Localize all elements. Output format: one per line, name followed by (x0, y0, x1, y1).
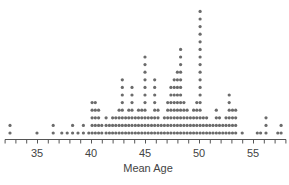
data-point (140, 124, 143, 127)
data-point (118, 124, 121, 127)
data-point (192, 109, 195, 112)
data-point (143, 109, 146, 112)
data-point (140, 109, 143, 112)
data-points (8, 10, 282, 135)
data-point (163, 116, 166, 119)
data-point (179, 55, 182, 58)
data-point (192, 124, 195, 127)
data-point (105, 124, 108, 127)
data-point (143, 101, 146, 104)
data-point (121, 101, 124, 104)
data-point (105, 131, 108, 134)
data-point (150, 124, 153, 127)
data-point (179, 78, 182, 81)
data-point (140, 116, 143, 119)
data-point (163, 131, 166, 134)
data-point (280, 131, 283, 134)
data-point (186, 109, 189, 112)
data-point (153, 124, 156, 127)
data-point (118, 131, 121, 134)
data-point (179, 86, 182, 89)
data-point (166, 131, 169, 134)
data-point (111, 116, 114, 119)
data-point (211, 124, 214, 127)
data-point (153, 109, 156, 112)
data-point (127, 131, 130, 134)
data-point (205, 116, 208, 119)
data-point (111, 124, 114, 127)
data-point (114, 124, 117, 127)
data-point (143, 116, 146, 119)
data-point (169, 109, 172, 112)
data-point (143, 86, 146, 89)
data-point (134, 116, 137, 119)
data-point (199, 78, 202, 81)
data-point (218, 124, 221, 127)
data-point (179, 124, 182, 127)
data-point (143, 63, 146, 66)
data-point (97, 131, 100, 134)
data-point (121, 124, 124, 127)
x-axis-label: Mean Age (123, 162, 173, 174)
data-point (264, 131, 267, 134)
data-point (221, 124, 224, 127)
data-point (169, 116, 172, 119)
data-point (228, 116, 231, 119)
data-point (199, 109, 202, 112)
data-point (264, 116, 267, 119)
data-point (234, 131, 237, 134)
data-point (91, 124, 94, 127)
x-tick-label: 45 (139, 147, 151, 159)
data-point (108, 124, 111, 127)
data-point (143, 78, 146, 81)
data-point (205, 124, 208, 127)
x-tick-label: 40 (85, 147, 97, 159)
data-point (224, 116, 227, 119)
data-point (71, 124, 74, 127)
data-point (215, 124, 218, 127)
data-point (166, 116, 169, 119)
data-point (87, 131, 90, 134)
data-point (153, 78, 156, 81)
data-point (173, 109, 176, 112)
data-point (264, 124, 267, 127)
data-point (82, 124, 85, 127)
data-point (143, 71, 146, 74)
data-point (82, 131, 85, 134)
data-point (156, 116, 159, 119)
data-point (231, 109, 234, 112)
data-point (231, 131, 234, 134)
data-point (211, 131, 214, 134)
data-point (176, 86, 179, 89)
data-point (234, 124, 237, 127)
data-point (8, 124, 11, 127)
x-axis-tick-labels: 3540455055 (31, 147, 259, 159)
data-point (100, 131, 103, 134)
data-point (140, 131, 143, 134)
data-point (202, 116, 205, 119)
data-point (195, 124, 198, 127)
data-point (97, 124, 100, 127)
data-point (173, 93, 176, 96)
data-point (228, 124, 231, 127)
data-point (124, 124, 127, 127)
data-point (134, 124, 137, 127)
data-point (176, 101, 179, 104)
data-point (166, 124, 169, 127)
data-point (169, 86, 172, 89)
data-point (166, 109, 169, 112)
data-point (202, 124, 205, 127)
data-point (176, 93, 179, 96)
dot-plot: 3540455055 Mean Age (0, 0, 289, 185)
data-point (130, 131, 133, 134)
data-point (256, 131, 259, 134)
data-point (221, 131, 224, 134)
data-point (234, 109, 237, 112)
data-point (179, 101, 182, 104)
data-point (173, 101, 176, 104)
data-point (179, 48, 182, 51)
x-tick-label: 55 (247, 147, 259, 159)
data-point (215, 116, 218, 119)
data-point (179, 71, 182, 74)
data-point (173, 86, 176, 89)
